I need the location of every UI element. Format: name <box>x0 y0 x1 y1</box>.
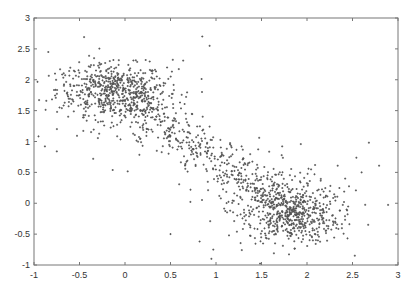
x-tick-label: -1 <box>30 270 38 280</box>
y-tick-label: 1.5 <box>17 106 30 116</box>
scatter-plot: -1-0.500.511.522.53 -1-0.500.511.522.53 <box>0 0 419 288</box>
x-tick-label: 3 <box>395 270 400 280</box>
y-axis: -1-0.500.511.522.53 <box>14 13 398 270</box>
x-axis: -1-0.500.511.522.53 <box>30 18 401 280</box>
data-points <box>37 36 390 265</box>
y-tick-label: -0.5 <box>14 229 30 239</box>
y-tick-label: 2 <box>25 75 30 85</box>
x-tick-label: 1 <box>213 270 218 280</box>
y-tick-label: 1 <box>25 137 30 147</box>
scatter-markers <box>37 36 390 265</box>
y-tick-label: 2.5 <box>17 44 30 54</box>
y-tick-label: 0.5 <box>17 167 30 177</box>
x-tick-label: 1.5 <box>255 270 268 280</box>
x-tick-label: 2 <box>304 270 309 280</box>
x-tick-label: 2.5 <box>346 270 359 280</box>
plot-frame <box>34 18 398 265</box>
y-tick-label: 3 <box>25 13 30 23</box>
x-tick-label: 0.5 <box>164 270 177 280</box>
y-tick-label: 0 <box>25 198 30 208</box>
y-tick-label: -1 <box>22 260 30 270</box>
x-tick-label: -0.5 <box>72 270 88 280</box>
x-tick-label: 0 <box>122 270 127 280</box>
